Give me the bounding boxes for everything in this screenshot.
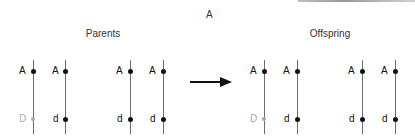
locus-dot-lower — [262, 117, 266, 121]
locus-dot-lower — [161, 117, 166, 122]
allele-lower: D — [19, 113, 26, 125]
allele-upper: A — [52, 65, 59, 77]
locus-dot-upper — [262, 69, 267, 74]
allele-upper: A — [116, 65, 123, 77]
locus-dot-upper — [161, 69, 166, 74]
arrow-shaft — [190, 81, 222, 83]
parents-heading: Parents — [86, 28, 120, 40]
locus-dot-lower — [63, 117, 68, 122]
allele-upper: A — [250, 65, 257, 77]
figure-title: A — [206, 9, 213, 21]
locus-dot-lower — [295, 117, 300, 122]
allele-upper: A — [283, 65, 290, 77]
locus-dot-upper — [295, 69, 300, 74]
allele-upper: A — [19, 65, 26, 77]
locus-dot-lower — [31, 117, 35, 121]
locus-dot-upper — [128, 69, 133, 74]
allele-lower: d — [117, 113, 123, 125]
allele-lower: D — [250, 113, 257, 125]
locus-dot-lower — [360, 117, 365, 122]
allele-upper: A — [381, 65, 388, 77]
allele-lower: d — [349, 113, 355, 125]
arrow-head — [220, 77, 232, 87]
allele-upper: A — [149, 65, 156, 77]
locus-dot-lower — [393, 117, 398, 122]
top-divider-bar — [298, 0, 415, 2]
locus-dot-upper — [360, 69, 365, 74]
locus-dot-upper — [31, 69, 36, 74]
locus-dot-upper — [63, 69, 68, 74]
allele-lower: d — [382, 113, 388, 125]
allele-lower: d — [53, 113, 59, 125]
allele-lower: d — [150, 113, 156, 125]
locus-dot-lower — [128, 117, 133, 122]
allele-upper: A — [348, 65, 355, 77]
locus-dot-upper — [393, 69, 398, 74]
offspring-heading: Offspring — [310, 28, 350, 40]
allele-lower: d — [284, 113, 290, 125]
